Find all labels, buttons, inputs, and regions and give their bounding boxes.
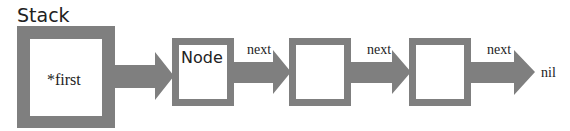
linked-list-stack-diagram: Stack *first Node next next next [0,0,570,131]
stack-title: Stack [17,4,70,26]
arrow-next-2: next [351,42,411,94]
arrow-next-1: next [234,42,291,94]
node-label: Node [181,48,223,67]
node-box-3 [409,38,471,106]
next-label-2: next [367,42,391,57]
arrow-first [115,52,174,100]
stack-box: *first [17,26,115,128]
first-pointer-label: *first [47,71,81,88]
node-box-2 [289,38,351,106]
next-label-3: next [487,42,511,57]
arrow-next-3: next [471,42,535,95]
next-label-1: next [247,42,271,57]
nil-label: nil [541,65,556,80]
node-box-1: Node [172,38,234,106]
